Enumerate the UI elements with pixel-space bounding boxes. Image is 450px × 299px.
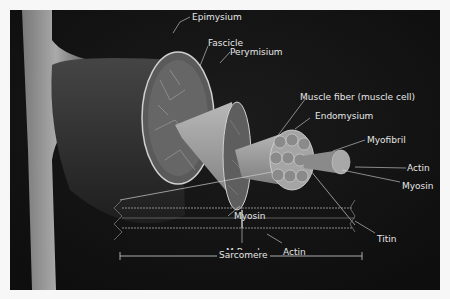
label-epimysium: Epimysium bbox=[192, 12, 242, 22]
label-perymisium: Perymisium bbox=[230, 47, 283, 57]
muscle-diagram: Epimysium Fascicle Perymisium Muscle fib… bbox=[10, 10, 440, 290]
label-titin: Titin bbox=[377, 234, 396, 244]
label-actin-top: Actin bbox=[407, 163, 430, 173]
muscle-illustration bbox=[10, 10, 440, 290]
label-endomysium: Endomysium bbox=[315, 111, 373, 121]
label-myosin-bottom: Myosin bbox=[234, 211, 266, 221]
label-myosin-top: Myosin bbox=[402, 181, 434, 191]
label-sarcomere: Sarcomere bbox=[217, 250, 270, 260]
label-muscle-fiber: Muscle fiber (muscle cell) bbox=[300, 92, 415, 102]
label-myofibril: Myofibril bbox=[367, 135, 406, 145]
label-actin-bottom: Actin bbox=[283, 247, 306, 257]
